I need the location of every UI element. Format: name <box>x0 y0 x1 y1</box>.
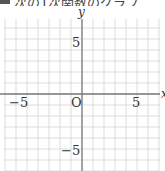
origin-label: O <box>71 95 82 110</box>
y-tick-label-neg5: −5 <box>61 143 80 158</box>
coordinate-plane: y x O −5 5 5 −5 <box>0 0 165 171</box>
x-tick-label-neg5: −5 <box>9 95 28 110</box>
x-tick-label-5: 5 <box>132 95 140 110</box>
x-axis-label: x <box>161 87 165 101</box>
y-axis-label: y <box>77 5 85 19</box>
y-tick-label-5: 5 <box>72 35 80 50</box>
